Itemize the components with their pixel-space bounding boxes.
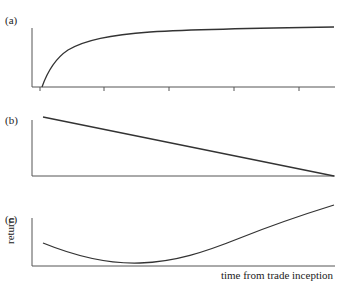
figure: (a) (b) (c) return time from trade incep… — [0, 0, 347, 291]
panel-a-label: (a) — [5, 14, 18, 27]
panel-c-curve — [43, 205, 334, 263]
panel-a: (a) — [5, 14, 335, 91]
panel-b-label: (b) — [5, 114, 18, 127]
panel-b-line — [43, 117, 334, 176]
x-axis-label: time from trade inception — [221, 269, 334, 281]
panel-a-curve — [42, 27, 334, 87]
y-axis-label: return — [4, 217, 16, 244]
panel-a-ticks — [40, 87, 299, 91]
panel-b: (b) — [5, 114, 335, 176]
panel-c: (c) return time from trade inception — [4, 205, 335, 281]
